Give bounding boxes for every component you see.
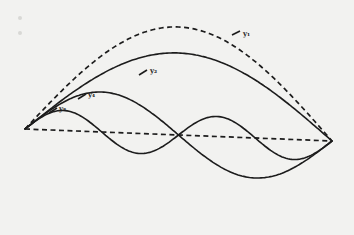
- standing-wave-diagram: y₁ y₂ y₄ y₈: [0, 0, 354, 235]
- curve-y1-envelope: [25, 27, 332, 141]
- curve-y8: [25, 111, 332, 160]
- curve-y2: [25, 53, 332, 141]
- label-y2: y₂: [149, 66, 157, 75]
- scan-smudge: [18, 31, 22, 35]
- label-y1: y₁: [242, 29, 250, 38]
- label-y4: y₄: [87, 90, 95, 99]
- label-leader-y1: [232, 31, 240, 35]
- scan-smudge: [18, 16, 22, 20]
- wave-modes-figure: y₁ y₂ y₄ y₈: [0, 0, 354, 235]
- label-y8: y₈: [58, 104, 66, 113]
- label-leader-y2: [139, 70, 147, 75]
